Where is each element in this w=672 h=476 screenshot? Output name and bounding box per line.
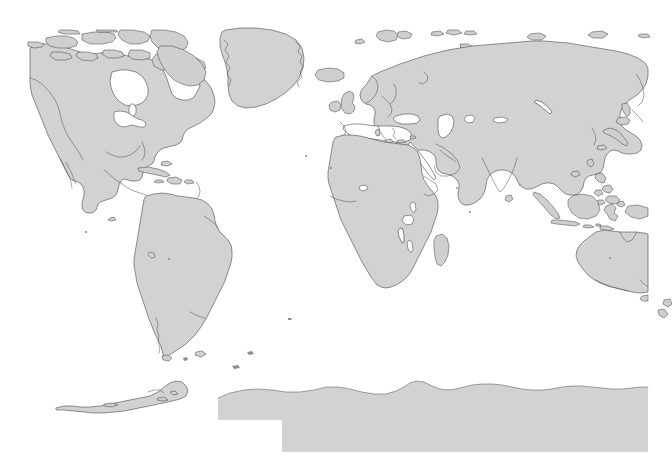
black-sea bbox=[393, 114, 420, 124]
indian-islet-1 bbox=[469, 211, 471, 213]
south-america-dot bbox=[168, 258, 170, 260]
atlantic-islet-2 bbox=[305, 155, 307, 157]
world-map-svg bbox=[0, 0, 672, 476]
indian-islet-2 bbox=[456, 187, 458, 189]
map-figure bbox=[0, 0, 672, 476]
australia-interior-dot bbox=[609, 257, 611, 259]
lesser-sunda bbox=[596, 224, 601, 226]
iceland bbox=[315, 68, 344, 82]
asia-islet-1 bbox=[519, 184, 521, 186]
map-canvas bbox=[0, 0, 672, 476]
atlantic-islet-1 bbox=[330, 167, 332, 169]
pacific-islet-1 bbox=[85, 231, 87, 233]
